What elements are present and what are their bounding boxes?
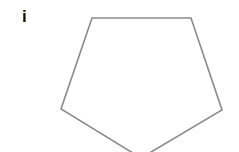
pentagon-shape: [0, 0, 239, 152]
